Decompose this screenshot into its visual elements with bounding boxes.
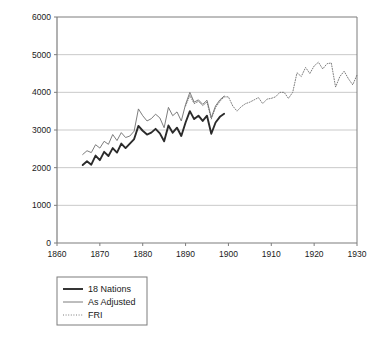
legend-label-18-nations: 18 Nations <box>88 284 132 294</box>
y-tick-label-0: 0 <box>46 238 51 248</box>
y-tick-label-5000: 5000 <box>32 50 51 60</box>
y-tick-label-2000: 2000 <box>32 163 51 173</box>
legend-label-fri: FRI <box>88 310 103 320</box>
x-tick-label-1880: 1880 <box>133 249 152 259</box>
y-tick-label-1000: 1000 <box>32 200 51 210</box>
x-tick-label-1890: 1890 <box>176 249 195 259</box>
y-tick-label-4000: 4000 <box>32 87 51 97</box>
x-tick-label-1870: 1870 <box>90 249 109 259</box>
legend-label-as-adjusted: As Adjusted <box>88 297 136 307</box>
chart-svg: 0100020003000400050006000 18601870188018… <box>0 0 378 341</box>
x-tick-label-1900: 1900 <box>219 249 238 259</box>
x-tick-label-1930: 1930 <box>348 249 367 259</box>
x-tick-label-1920: 1920 <box>305 249 324 259</box>
x-tick-label-1910: 1910 <box>262 249 281 259</box>
y-tick-label-6000: 6000 <box>32 12 51 22</box>
x-tick-label-1860: 1860 <box>48 249 67 259</box>
chart-container: Kilometers 0100020003000400050006000 186… <box>0 0 378 341</box>
y-tick-label-3000: 3000 <box>32 125 51 135</box>
chart-legend: 18 NationsAs AdjustedFRI <box>57 277 147 325</box>
